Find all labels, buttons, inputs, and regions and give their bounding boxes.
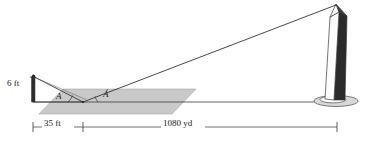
sight-line-mirror-to-monument-top bbox=[83, 5, 336, 102]
observer-pole bbox=[32, 77, 36, 102]
observer-height-label: 6 ft bbox=[7, 79, 19, 88]
angle-a-label: A bbox=[56, 92, 62, 101]
angle-a-prime-label: Á bbox=[103, 90, 109, 99]
distance-near-label: 35 ft bbox=[44, 119, 61, 128]
distance-far-label: 1080 yd bbox=[163, 119, 192, 128]
ground-plane bbox=[39, 89, 196, 114]
mirror-point bbox=[82, 101, 84, 103]
